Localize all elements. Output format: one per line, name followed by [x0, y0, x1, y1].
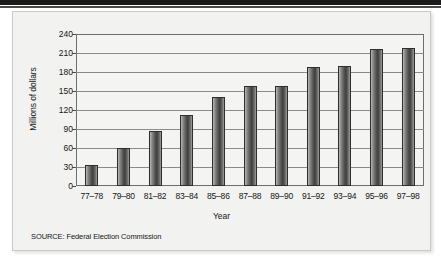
chart-card: Millions of dollars 03060901201501802102…: [12, 11, 431, 251]
bar: [402, 48, 415, 186]
x-axis-title: Year: [13, 211, 430, 221]
bar: [338, 66, 351, 186]
y-tick-label: 210: [43, 49, 73, 57]
bar: [244, 86, 257, 186]
bar: [370, 49, 383, 186]
y-tick-mark: [72, 53, 76, 54]
source-note: SOURCE: Federal Election Commission: [31, 232, 161, 241]
bar: [212, 97, 225, 186]
header-rule-thin: [0, 6, 441, 8]
y-tick-mark: [72, 167, 76, 168]
y-tick-label: 120: [43, 106, 73, 114]
y-tick-mark: [72, 129, 76, 130]
bar: [117, 148, 130, 186]
bar: [85, 165, 98, 186]
x-tick-label: 97–98: [388, 191, 428, 201]
y-tick-mark: [72, 148, 76, 149]
y-tick-mark: [72, 91, 76, 92]
y-axis-title: Millions of dollars: [28, 53, 38, 145]
y-tick-label: 240: [43, 30, 73, 38]
bar: [275, 86, 288, 186]
y-tick-label: 0: [43, 182, 73, 190]
y-tick-label: 60: [43, 144, 73, 152]
bar: [180, 115, 193, 186]
y-tick-mark: [72, 110, 76, 111]
y-tick-label: 150: [43, 87, 73, 95]
header-rule-thick: [0, 0, 441, 5]
y-tick-label: 30: [43, 163, 73, 171]
bar: [307, 67, 320, 186]
y-tick-mark: [72, 34, 76, 35]
y-tick-label: 180: [43, 68, 73, 76]
y-tick-mark: [72, 72, 76, 73]
bar: [149, 131, 162, 186]
y-tick-mark: [72, 186, 76, 187]
figure-container: Millions of dollars 03060901201501802102…: [0, 0, 441, 264]
y-tick-label: 90: [43, 125, 73, 133]
gridline: [76, 34, 424, 35]
